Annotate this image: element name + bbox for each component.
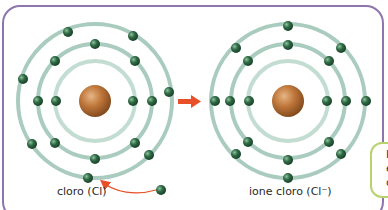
electron <box>225 96 235 106</box>
electron <box>18 74 28 84</box>
incoming-electron <box>156 185 166 195</box>
electron <box>244 96 254 106</box>
chloride-ion-label: ione cloro (Cl⁻) <box>249 185 332 198</box>
electron <box>50 56 60 66</box>
electron <box>361 96 371 106</box>
reaction-arrow-icon <box>178 95 201 108</box>
electron <box>33 96 43 106</box>
electron-capture-arrow-icon <box>104 183 156 193</box>
electron <box>336 43 346 53</box>
electron <box>283 155 293 165</box>
electron <box>283 40 293 50</box>
electron <box>231 43 241 53</box>
electron <box>90 39 100 49</box>
electron <box>128 96 138 106</box>
electron <box>324 56 334 66</box>
electron <box>324 137 334 147</box>
electron <box>164 87 174 97</box>
chloride-ion <box>210 21 371 183</box>
electron <box>210 96 220 106</box>
electron <box>63 27 73 37</box>
electron <box>83 173 93 183</box>
electron <box>51 96 61 106</box>
electron <box>336 149 346 159</box>
electron <box>243 137 253 147</box>
electron <box>322 96 332 106</box>
electron <box>243 56 253 66</box>
electron <box>128 31 138 41</box>
electron <box>130 138 140 148</box>
electron <box>50 138 60 148</box>
chlorine-atom <box>18 24 174 183</box>
electron <box>341 96 351 106</box>
electron <box>144 150 154 160</box>
electron <box>283 21 293 31</box>
electron <box>147 96 157 106</box>
nucleus <box>79 85 111 117</box>
electron <box>231 149 241 159</box>
electron <box>90 154 100 164</box>
electron <box>283 173 293 183</box>
chlorine-atom-label: cloro (Cl) <box>57 185 107 198</box>
note-box: I e c <box>370 142 388 198</box>
atom-diagram <box>0 0 388 210</box>
electron <box>27 139 37 149</box>
nucleus <box>272 85 304 117</box>
electron <box>130 56 140 66</box>
